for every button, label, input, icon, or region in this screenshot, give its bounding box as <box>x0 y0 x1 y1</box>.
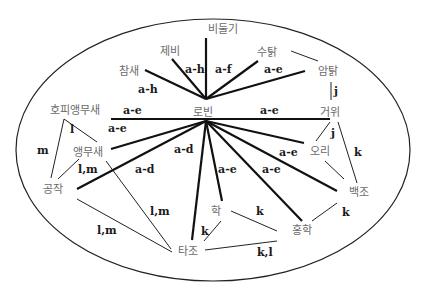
edge-robin-sutak <box>206 61 258 99</box>
label-hopi-gongjak: m <box>37 144 49 157</box>
label-honghak-baekjo: k <box>342 206 350 219</box>
edge-robin-hak <box>206 121 222 201</box>
edge-hopi-aengmusae <box>64 119 97 142</box>
label-robin-geowi: a-e <box>260 104 279 117</box>
edge-hak-honghak <box>231 211 277 231</box>
node-geowi: 거위 <box>320 106 340 119</box>
edge-sutak-amtak <box>291 51 318 61</box>
node-chamsae: 참새 <box>119 65 139 78</box>
node-hak: 학 <box>211 205 221 218</box>
hub-edges <box>77 38 337 240</box>
node-gongjak: 공작 <box>43 183 63 196</box>
edge-hopi-gongjak <box>51 119 64 178</box>
edge-aengmusae-gongjak <box>58 159 79 179</box>
node-baekjo: 백조 <box>349 186 369 199</box>
label-robin-hak: a-e <box>218 163 237 176</box>
label-robin-chamsae: a-h <box>138 83 158 96</box>
node-robin-hub: 로빈 <box>193 106 213 119</box>
node-tajo: 타조 <box>178 245 198 258</box>
edge-robin-ori <box>206 121 304 143</box>
label-robin-tajo: a-d <box>174 143 194 156</box>
node-bidulgi: 비둘기 <box>208 23 238 36</box>
label-amtak-geowi: j <box>333 85 338 98</box>
label-robin-jebi: a-h <box>185 63 205 76</box>
label-robin-aengmusae: a-e <box>108 122 127 135</box>
label-robin-hopi: a-e <box>123 104 142 117</box>
edge-robin-tajo <box>192 121 206 240</box>
label-robin-honghak: a-e <box>262 163 281 176</box>
label-hak-honghak: k <box>256 205 264 218</box>
label-geowi-ori: j <box>330 127 335 140</box>
bird-similarity-diagram: 비둘기 제비 참새 수탉 암탉 호피앵무새 로빈 거위 앵무새 오리 공작 백조… <box>0 0 428 285</box>
edge-ori-baekjo <box>325 161 344 179</box>
label-aengmusae-tajo: l,m <box>150 205 170 218</box>
node-amtak: 암탉 <box>318 65 338 78</box>
label-hak-tajo: k <box>201 225 209 238</box>
label-robin-baekjo: a-e <box>279 146 298 159</box>
node-aengmusae: 앵무새 <box>73 146 103 159</box>
label-robin-sutak: a-f <box>215 63 233 76</box>
label-robin-amtak: a-e <box>264 63 283 76</box>
label-geowi-baekjo: k <box>354 146 362 159</box>
edge-honghak-baekjo <box>312 203 337 221</box>
edge-geowi-ori <box>316 122 330 141</box>
node-hopi: 호피앵무새 <box>50 104 100 117</box>
node-sutak: 수탉 <box>257 46 277 59</box>
label-robin-gongjak: a-d <box>135 163 155 176</box>
label-gongjak-tajo: l,m <box>97 224 117 237</box>
label-hopi-aengmusae: l <box>70 123 74 136</box>
node-ori: 오리 <box>310 145 330 158</box>
node-jebi: 제비 <box>160 45 180 58</box>
node-honghak: 홍학 <box>292 223 312 237</box>
label-tajo-honghak: k,l <box>257 246 273 259</box>
label-aengmusae-gongjak: l,m <box>78 163 98 176</box>
